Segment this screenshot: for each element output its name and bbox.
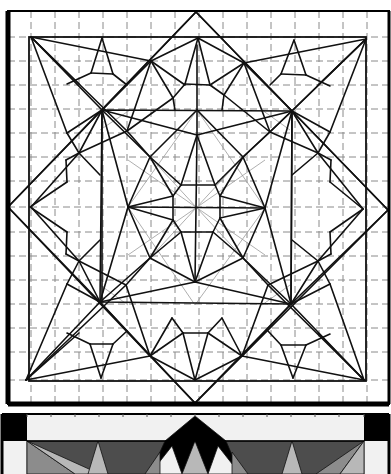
pattern-segment	[281, 74, 306, 75]
pattern-segment	[330, 232, 331, 254]
quilt-pattern-diagram	[0, 0, 391, 474]
pattern-segment	[291, 111, 292, 304]
pattern-segment	[66, 160, 67, 182]
corner-square	[2, 414, 27, 441]
pattern-segment	[330, 160, 331, 182]
corner-square	[364, 414, 389, 441]
pattern-segment	[66, 232, 67, 254]
pattern-segment	[91, 73, 113, 74]
colored-preview-panel	[2, 414, 389, 474]
